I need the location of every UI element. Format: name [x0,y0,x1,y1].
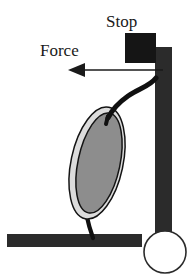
oval-top-connector [106,116,108,124]
stop-label: Stop [106,12,137,31]
force-label: Force [40,41,79,60]
stop-block [125,33,156,63]
vertical-post [155,47,172,238]
base-bar [7,234,142,247]
force-arrow-head [68,63,85,77]
wheel-circle [144,231,186,273]
diagram-canvas: Stop Force [0,0,191,275]
mechanics-diagram: Stop Force [0,0,191,275]
